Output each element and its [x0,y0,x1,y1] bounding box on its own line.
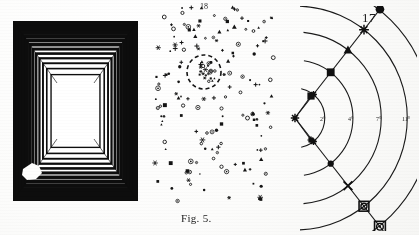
figure-star-field [152,4,277,204]
tunnel-aperture [57,83,94,139]
star-field-svg [152,4,277,204]
figure-arc-diagram: 2°4°7°11°21° [282,6,417,231]
tunnel-rings [13,21,138,201]
arc-label-2: 7° [376,116,382,122]
arc-label-1: 4° [348,116,354,122]
figure-top-mark: 18 [200,2,208,11]
page-number: 17 [362,10,376,26]
arc-label-0: 2° [320,116,326,122]
figure-caption: Fig. 5. [181,212,212,224]
tunnel-illusion-svg [13,21,138,201]
figure-tunnel-illusion [13,21,138,201]
scanned-page: 18 Fig. 5. 2°4°7°11°21° 17 [0,0,419,235]
arc-diagram-svg: 2°4°7°11°21° [282,6,417,231]
arc-label-3: 11° [402,116,411,122]
